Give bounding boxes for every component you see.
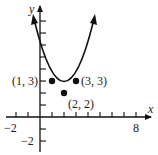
y-axis-label: y: [28, 2, 35, 16]
point-2-2: [61, 90, 67, 96]
x-tick-label-8: 8: [133, 121, 139, 135]
point-3-3: [73, 78, 79, 84]
point-label-2-2: (2, 2): [68, 97, 94, 111]
parabola-graph: y x −2 8 −2 (1, 3) (2, 2) (3, 3): [0, 0, 158, 155]
x-ticks: [16, 112, 136, 117]
y-tick-label-neg2: −2: [21, 134, 34, 148]
point-label-1-3: (1, 3): [12, 74, 38, 88]
y-ticks: [40, 21, 46, 141]
x-axis-label: x: [147, 102, 154, 116]
point-label-3-3: (3, 3): [81, 74, 107, 88]
parabola-curve: [35, 23, 93, 82]
point-1-3: [49, 78, 55, 84]
x-tick-label-neg2: −2: [4, 121, 17, 135]
curve-arrow-right: [90, 14, 97, 25]
